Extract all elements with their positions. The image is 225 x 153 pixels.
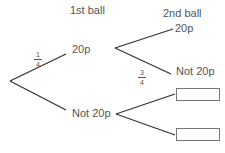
node-second-not-20p: Not 20p xyxy=(176,66,215,77)
probability-1-4: 1 4 xyxy=(34,51,42,68)
answer-box-upper[interactable] xyxy=(176,88,220,101)
header-1st-ball: 1st ball xyxy=(70,5,105,16)
fraction-denominator: 4 xyxy=(34,60,42,68)
answer-box-lower[interactable] xyxy=(176,128,220,141)
fraction-numerator: 1 xyxy=(34,51,42,60)
branch-not20p-to-box2 xyxy=(116,114,175,135)
branch-not20p-to-box1 xyxy=(116,94,175,114)
node-second-20p: 20p xyxy=(175,23,193,34)
fraction-denominator: 4 xyxy=(138,78,146,86)
branch-root-to-not-20p xyxy=(10,81,66,110)
branch-20p-to-20p xyxy=(115,29,173,48)
fraction-numerator: 3 xyxy=(138,69,146,78)
probability-3-4: 3 4 xyxy=(138,69,146,86)
node-first-not-20p: Not 20p xyxy=(72,108,111,119)
header-2nd-ball: 2nd ball xyxy=(163,8,202,19)
node-first-20p: 20p xyxy=(72,44,90,55)
